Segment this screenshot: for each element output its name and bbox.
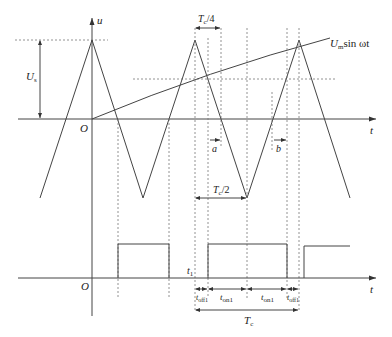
pulse-1: [118, 244, 169, 278]
top-axes: [18, 18, 376, 316]
origin-bottom-label: O: [81, 280, 89, 292]
ton1-left-label: ton1: [220, 292, 234, 304]
a-label: a: [212, 143, 217, 154]
quarter-period-label: Tc/4: [198, 13, 214, 26]
toff1-left-label: toff1: [196, 293, 208, 303]
ton1-right-label: ton1: [261, 292, 275, 304]
period-label: Tc: [244, 314, 253, 328]
half-period-label: Tc/2: [213, 184, 229, 197]
pulse-2: [208, 244, 287, 278]
sine-wave-label: Umsin ωt: [330, 37, 369, 51]
toff1-right-label: toff1: [287, 293, 299, 303]
sine-modulating-wave: [92, 38, 330, 119]
t1-label: t1: [187, 265, 194, 278]
pulse-3: [304, 246, 350, 278]
pwm-diagram: u t O t O Us Tc/4 Umsin ωt a b Tc/2 t1 t…: [0, 0, 392, 337]
amplitude-label: Us: [26, 70, 37, 84]
b-label: b: [276, 143, 281, 154]
t-axis-top-label: t: [370, 124, 374, 136]
origin-top-label: O: [80, 122, 88, 134]
diagram-svg: u t O t O Us Tc/4 Umsin ωt a b Tc/2 t1 t…: [0, 0, 392, 337]
t-axis-bottom-label: t: [370, 283, 374, 295]
u-axis-label: u: [97, 14, 103, 26]
